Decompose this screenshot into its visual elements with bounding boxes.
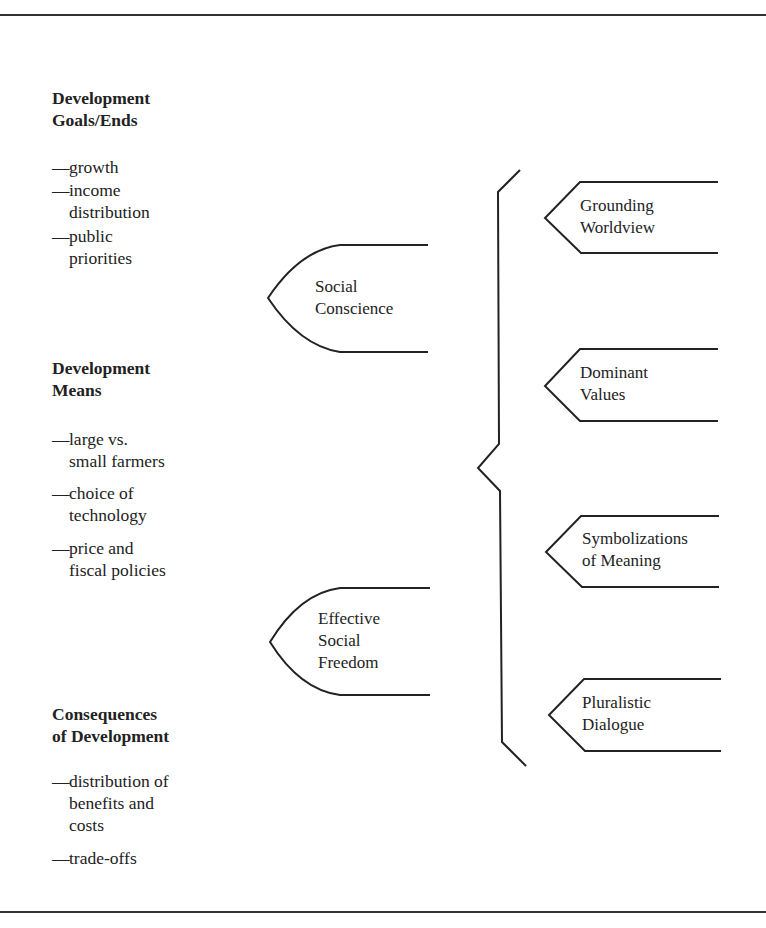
heading-line: Goals/Ends	[52, 109, 150, 131]
label-line: Pluralistic	[582, 692, 651, 714]
dominant-values-label: Dominant Values	[580, 362, 648, 406]
item-text: trade-offs	[69, 848, 137, 868]
list-item-growth: —growth	[52, 156, 119, 178]
list-item-farmers: —large vs. small farmers	[52, 428, 165, 472]
grounding-worldview-label: Grounding Worldview	[580, 195, 655, 239]
item-text: priorities	[52, 247, 132, 269]
list-item-trade-offs: —trade-offs	[52, 847, 137, 869]
list-item-technology: —choice of technology	[52, 482, 147, 526]
dash: —	[52, 482, 69, 504]
label-line: Dialogue	[582, 714, 651, 736]
label-line: Worldview	[580, 217, 655, 239]
dash: —	[52, 770, 69, 792]
symbolizations-label: Symbolizations of Meaning	[582, 528, 688, 572]
heading-line: Development	[52, 87, 150, 109]
label-line: of Meaning	[582, 550, 688, 572]
label-line: Social	[315, 276, 393, 298]
item-text: growth	[69, 157, 119, 177]
list-item-public-priorities: —public priorities	[52, 225, 132, 269]
label-line: Effective	[318, 608, 380, 630]
dash: —	[52, 537, 69, 559]
heading-line: Consequences	[52, 703, 169, 725]
means-heading: Development Means	[52, 357, 150, 401]
label-line: Grounding	[580, 195, 655, 217]
item-text: costs	[52, 814, 169, 836]
social-conscience-label: Social Conscience	[315, 276, 393, 320]
dash: —	[52, 428, 69, 450]
item-text: distribution	[52, 201, 150, 223]
item-text: large vs.	[69, 429, 128, 449]
label-line: Freedom	[318, 652, 380, 674]
list-item-price-fiscal: —price and fiscal policies	[52, 537, 166, 581]
item-text: small farmers	[52, 450, 165, 472]
pluralistic-dialogue-label: Pluralistic Dialogue	[582, 692, 651, 736]
effective-social-freedom-label: Effective Social Freedom	[318, 608, 380, 674]
consequences-heading: Consequences of Development	[52, 703, 169, 747]
item-text: price and	[69, 538, 134, 558]
label-line: Conscience	[315, 298, 393, 320]
label-line: Symbolizations	[582, 528, 688, 550]
item-text: public	[69, 226, 113, 246]
list-item-distribution: —distribution of benefits and costs	[52, 770, 169, 836]
label-line: Values	[580, 384, 648, 406]
item-text: distribution of	[69, 771, 169, 791]
goals-ends-heading: Development Goals/Ends	[52, 87, 150, 131]
list-item-income-distribution: —income distribution	[52, 179, 150, 223]
item-text: technology	[52, 504, 147, 526]
item-text: benefits and	[52, 792, 169, 814]
heading-line: Means	[52, 379, 150, 401]
dash: —	[52, 156, 69, 178]
label-line: Dominant	[580, 362, 648, 384]
brace	[478, 170, 526, 766]
heading-line: Development	[52, 357, 150, 379]
dash: —	[52, 179, 69, 201]
dash: —	[52, 225, 69, 247]
item-text: fiscal policies	[52, 559, 166, 581]
label-line: Social	[318, 630, 380, 652]
item-text: choice of	[69, 483, 134, 503]
item-text: income	[69, 180, 121, 200]
heading-line: of Development	[52, 725, 169, 747]
dash: —	[52, 847, 69, 869]
